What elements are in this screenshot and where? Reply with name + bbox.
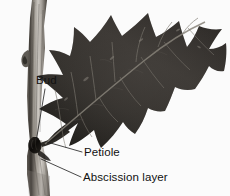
figure-illustration <box>0 0 230 196</box>
label-bud: Bud <box>36 74 57 86</box>
label-petiole: Petiole <box>84 146 120 158</box>
label-abscission-layer: Abscission layer <box>83 171 168 183</box>
leaf-abscission-figure: Bud Petiole Abscission layer <box>0 0 230 196</box>
